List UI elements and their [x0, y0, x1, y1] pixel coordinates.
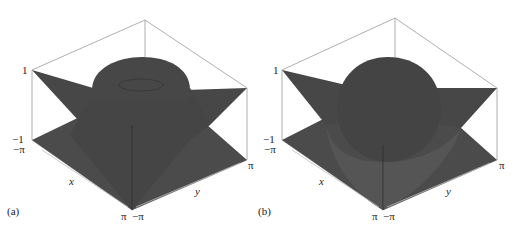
panel-tag-a: (a) [7, 205, 19, 217]
y-axis-label: y [446, 186, 451, 197]
panel-a: 1 −1 −π x y π −π π (a) [0, 0, 256, 235]
y-start-label: −π [132, 211, 144, 222]
y-end-label: π [499, 160, 505, 171]
y-start-label: −π [383, 211, 395, 222]
x-end-label: π [121, 211, 127, 222]
x-start-label: −π [13, 144, 25, 155]
y-axis-label: y [195, 186, 200, 197]
x-start-label: −π [264, 144, 276, 155]
y-end-label: π [248, 160, 254, 171]
x-axis-label: x [319, 176, 324, 187]
x-axis-label: x [69, 176, 74, 187]
panel-b: 1 −1 −π x y π −π π (b) [256, 0, 512, 235]
panel-tag-b: (b) [258, 205, 271, 217]
z-max-label: 1 [22, 65, 28, 76]
z-max-label: 1 [273, 65, 279, 76]
surface-plot-b [256, 0, 512, 235]
x-end-label: π [372, 211, 378, 222]
surface-plot-a [0, 0, 256, 235]
